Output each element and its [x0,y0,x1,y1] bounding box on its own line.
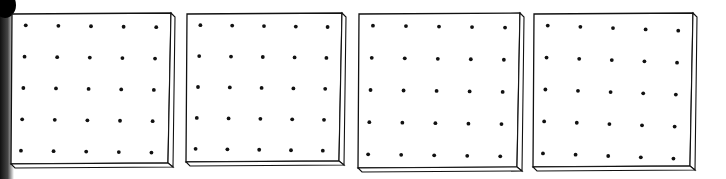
peg-dot [152,88,156,92]
peg-dot [403,56,407,60]
peg-dot [502,58,506,62]
peg-dot [469,57,473,61]
peg-dot [611,26,615,30]
peg-dot [400,121,404,125]
peg-dot [294,25,298,29]
peg-dot [545,56,549,60]
peg-dot [261,55,265,59]
board-bottom-edge [533,166,695,171]
peg-dot [20,117,24,121]
peg-dot [543,88,547,92]
peg-dot [609,90,613,94]
peg-dot [577,57,581,61]
peg-dot [402,89,406,93]
peg-dot [369,88,373,92]
peg-dot [196,85,200,89]
peg-dot [88,56,92,60]
peg-dot [437,25,441,29]
peg-dot [639,155,643,159]
peg-dot [194,147,198,151]
geoboard [11,13,185,177]
peg-dot [322,118,326,122]
geoboard [186,13,356,175]
board-bottom-edge [358,167,522,172]
peg-dot [227,116,231,120]
peg-dot [197,54,201,58]
peg-dot [199,23,203,27]
peg-dot [640,123,644,127]
peg-dot [434,121,438,125]
peg-dot [230,24,234,28]
board-face [358,13,520,168]
peg-dot [644,27,648,31]
peg-dot [326,25,330,29]
peg-dot [676,29,680,33]
peg-dot [150,151,154,155]
peg-dot [260,86,264,90]
peg-dot [470,25,474,29]
peg-dot [578,25,582,29]
peg-dot [498,154,502,158]
peg-dot [370,56,374,60]
peg-dot [52,149,56,153]
peg-dot [323,87,327,91]
peg-dot [606,154,610,158]
peg-dot [675,61,679,65]
peg-dot [153,57,157,61]
peg-dot [574,153,578,157]
peg-dot [608,122,612,126]
peg-dot [262,24,266,28]
board-face [186,13,342,162]
peg-dot [293,56,297,60]
peg-dot [121,56,125,60]
peg-dot [500,122,504,126]
peg-dot [257,148,261,152]
board-bottom-edge [11,163,173,168]
peg-dot [84,150,88,154]
peg-dot [24,23,28,27]
peg-dot [325,56,329,60]
peg-dot [367,120,371,124]
peg-dot [371,24,375,28]
peg-dot [576,89,580,93]
peg-dot [672,157,676,161]
peg-dot [610,58,614,62]
peg-dot [89,24,93,28]
peg-dot [54,87,58,91]
peg-dot [503,26,507,30]
peg-dot [290,117,294,121]
peg-dot [226,147,230,151]
peg-dot [117,150,121,154]
peg-dot [228,86,232,90]
geoboard [533,13,707,179]
peg-dot [546,24,550,28]
peg-dot [87,87,91,91]
peg-dot [436,57,440,61]
peg-dot [292,86,296,90]
peg-dot [321,149,325,153]
board-face [11,13,171,164]
peg-dot [501,90,505,94]
peg-dot [151,119,155,123]
peg-dot [23,55,27,59]
peg-dot [641,91,645,95]
peg-dot [122,25,126,29]
peg-dot [404,24,408,28]
peg-dot [19,149,23,153]
peg-dot [575,121,579,125]
peg-dot [259,117,263,121]
peg-dot [86,118,90,122]
peg-dot [467,122,471,126]
peg-dot [119,88,123,92]
peg-dot [366,152,370,156]
peg-dot [195,116,199,120]
peg-dot [56,24,60,28]
peg-dot [435,89,439,93]
peg-dot [673,125,677,129]
board-bottom-edge [186,161,344,166]
peg-dot [289,148,293,152]
peg-dot [465,154,469,158]
peg-dot [154,25,158,29]
peg-dot [21,86,25,90]
board-face [533,13,693,167]
